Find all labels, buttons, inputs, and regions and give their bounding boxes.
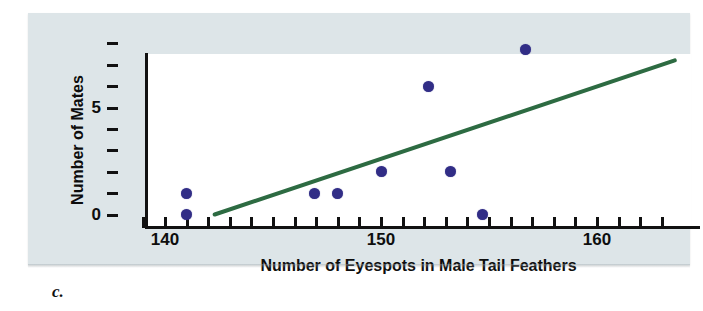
x-axis-tick [380, 217, 383, 228]
plot-canvas [146, 54, 691, 227]
y-axis-tick [107, 128, 118, 131]
y-axis-line [145, 53, 148, 229]
x-axis-tick [553, 217, 556, 228]
scatter-point [376, 166, 387, 177]
figure-panel: 14015016005 Number of Eyespots in Male T… [28, 13, 690, 265]
x-axis-tick [402, 217, 405, 228]
y-axis-tick [107, 171, 118, 174]
y-axis-tick [107, 42, 118, 45]
x-axis-tick [423, 217, 426, 228]
x-axis-tick [250, 217, 253, 228]
y-axis-title: Number of Mates [69, 45, 87, 235]
scatter-point [332, 188, 343, 199]
x-axis-tick [229, 217, 232, 228]
x-axis-tick [358, 217, 361, 228]
x-axis-tick [142, 217, 145, 228]
scatter-point [309, 188, 320, 199]
figure-caption-label: c. [52, 282, 64, 302]
x-axis-tick [466, 217, 469, 228]
x-axis-tick [488, 217, 491, 228]
y-axis-tick [107, 214, 118, 217]
x-axis-tick [294, 217, 297, 228]
x-axis-tick-label: 150 [351, 230, 411, 250]
x-axis-tick [510, 217, 513, 228]
scatter-point [445, 166, 456, 177]
y-axis-tick [107, 85, 118, 88]
x-axis-tick-label: 140 [135, 230, 195, 250]
x-axis-tick [618, 217, 621, 228]
x-axis-tick [574, 217, 577, 228]
x-axis-tick-label: 160 [567, 230, 627, 250]
scatter-point [423, 81, 434, 92]
x-axis-tick [337, 217, 340, 228]
y-axis-tick [107, 192, 118, 195]
scatter-point [181, 188, 192, 199]
scatter-point [477, 209, 488, 220]
x-axis-tick [661, 217, 664, 228]
y-axis-tick [107, 64, 118, 67]
x-axis-tick [445, 217, 448, 228]
x-axis-tick [639, 217, 642, 228]
x-axis-tick [164, 217, 167, 228]
scanned-page: 14015016005 Number of Eyespots in Male T… [0, 0, 703, 311]
x-axis-title: Number of Eyespots in Male Tail Feathers [146, 257, 691, 275]
x-axis-tick [315, 217, 318, 228]
y-axis-tick [107, 149, 118, 152]
x-axis-tick [596, 217, 599, 228]
y-axis-tick [107, 107, 118, 110]
x-axis-tick [207, 217, 210, 228]
x-axis-tick [531, 217, 534, 228]
x-axis-tick [272, 217, 275, 228]
